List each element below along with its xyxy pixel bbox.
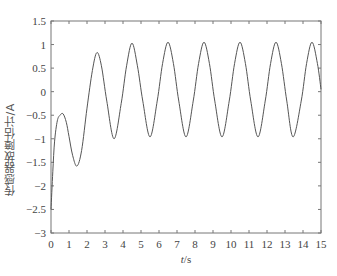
- fault-estimate-curve: [51, 42, 321, 209]
- x-tick-label: 13: [280, 238, 292, 250]
- y-tick-label: −2.5: [26, 203, 46, 215]
- y-tick-label: 1.5: [32, 15, 46, 27]
- y-tick-label: 1: [41, 39, 47, 51]
- x-tick-label: 2: [84, 238, 90, 250]
- x-tick-label: 3: [102, 238, 108, 250]
- y-tick-label: −3: [34, 227, 46, 239]
- line-chart: 0123456789101112131415 1.510.50−0.5−1−1.…: [0, 0, 337, 276]
- x-axis-label: t/s: [181, 253, 191, 265]
- x-tick-label: 11: [244, 238, 255, 250]
- y-tick-label: 0: [41, 86, 47, 98]
- x-tick-label: 14: [298, 238, 310, 250]
- y-tick-label: −1.5: [26, 156, 46, 168]
- x-tick-label: 5: [138, 238, 144, 250]
- x-tick-label: 12: [262, 238, 273, 250]
- y-tick-label: 0.5: [32, 62, 46, 74]
- y-tick-label: −0.5: [26, 109, 46, 121]
- x-tick-label: 9: [210, 238, 216, 250]
- y-tick-label: −1: [34, 133, 46, 145]
- x-axis-ticks: 0123456789101112131415: [48, 21, 327, 250]
- x-tick-label: 7: [174, 238, 180, 250]
- x-tick-label: 4: [120, 238, 126, 250]
- plot-frame: [51, 21, 321, 233]
- y-tick-label: −2: [34, 180, 46, 192]
- x-tick-label: 15: [316, 238, 328, 250]
- x-tick-label: 8: [192, 238, 198, 250]
- y-axis-label: 传感器故障估计/A: [3, 86, 19, 196]
- x-tick-label: 6: [156, 238, 162, 250]
- y-axis-ticks: 1.510.50−0.5−1−1.5−2−2.5−3: [26, 15, 321, 239]
- x-tick-label: 10: [226, 238, 238, 250]
- x-tick-label: 1: [66, 238, 72, 250]
- x-tick-label: 0: [48, 238, 54, 250]
